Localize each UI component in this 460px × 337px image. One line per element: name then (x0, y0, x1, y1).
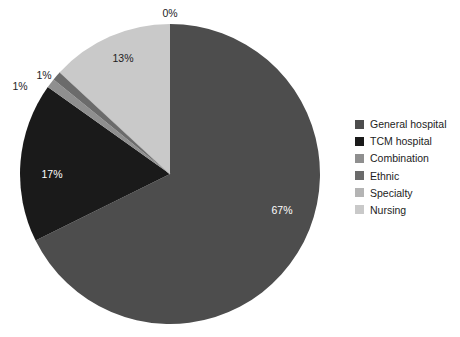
legend-item-label: TCM hospital (370, 135, 432, 147)
legend-swatch-icon (355, 205, 364, 214)
legend-item-tcm-hospital[interactable]: TCM hospital (355, 135, 460, 147)
legend-swatch-icon (355, 120, 364, 129)
pie-slice-label: 67% (271, 204, 292, 216)
legend-item-label: Ethnic (370, 170, 399, 182)
legend-swatch-icon (355, 188, 364, 197)
pie-slice-label: 1% (36, 69, 51, 81)
legend-swatch-icon (355, 137, 364, 146)
pie-chart-canvas: 67%17%1%1%0%13% (0, 0, 340, 337)
pie-slice-label: 17% (41, 168, 62, 180)
legend-item-ethnic[interactable]: Ethnic (355, 170, 460, 182)
pie-chart-figure: 67%17%1%1%0%13% General hospitalTCM hosp… (0, 0, 460, 337)
legend-item-label: Nursing (370, 204, 406, 216)
chart-legend: General hospitalTCM hospitalCombinationE… (355, 118, 460, 216)
pie-slice-label: 0% (162, 7, 177, 19)
pie-slice-group (20, 24, 320, 324)
pie-slice-label: 1% (12, 80, 27, 92)
legend-item-specialty[interactable]: Specialty (355, 187, 460, 199)
legend-item-nursing[interactable]: Nursing (355, 204, 460, 216)
pie-slice-label: 13% (112, 52, 133, 64)
legend-item-label: General hospital (370, 118, 446, 130)
legend-swatch-icon (355, 171, 364, 180)
legend-item-label: Combination (370, 152, 429, 164)
legend-item-general-hospital[interactable]: General hospital (355, 118, 460, 130)
legend-swatch-icon (355, 154, 364, 163)
legend-item-combination[interactable]: Combination (355, 152, 460, 164)
legend-item-label: Specialty (370, 187, 413, 199)
